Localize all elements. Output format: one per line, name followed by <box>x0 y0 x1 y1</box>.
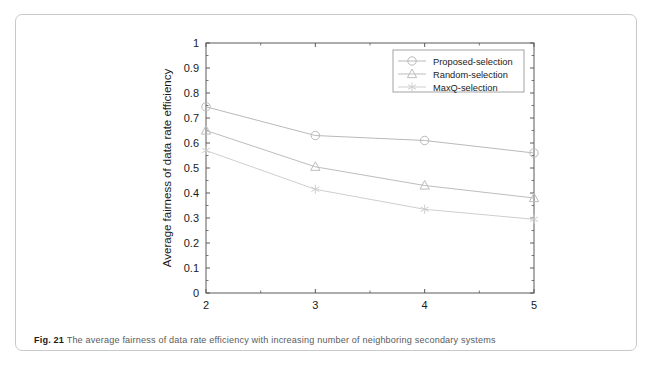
y-tick-label: 0.7 <box>184 112 199 124</box>
y-tick-label: 0.5 <box>184 162 199 174</box>
legend-label: Proposed-selection <box>433 57 513 67</box>
series-line <box>206 107 534 153</box>
x-tick-label: 5 <box>531 299 537 311</box>
y-axis-title: Average fairness of data rate efficiency <box>161 69 173 268</box>
x-tick-label: 4 <box>422 299 428 311</box>
marker-star-ray <box>421 209 425 211</box>
legend-label: MaxQ-selection <box>433 83 498 93</box>
line-chart-svg: 00.10.20.30.40.50.60.70.80.912345The num… <box>16 15 638 315</box>
x-tick-label: 2 <box>203 299 209 311</box>
x-tick-label: 3 <box>312 299 318 311</box>
marker-star-ray <box>311 189 315 191</box>
series-1 <box>202 103 538 158</box>
y-tick-label: 1 <box>193 37 199 49</box>
series-3 <box>202 146 538 224</box>
series-2 <box>201 126 538 202</box>
marker-star-ray <box>206 148 210 150</box>
series-line <box>206 131 534 199</box>
marker-star-ray <box>202 148 206 150</box>
chart-legend: Proposed-selectionRandom-selectionMaxQ-s… <box>393 50 524 93</box>
chart-plot-area: 00.10.20.30.40.50.60.70.80.912345The num… <box>16 15 638 315</box>
y-tick-label: 0.9 <box>184 62 199 74</box>
y-tick-label: 0.2 <box>184 237 199 249</box>
y-tick-label: 0 <box>193 287 199 299</box>
y-tick-label: 0.8 <box>184 87 199 99</box>
y-tick-label: 0.3 <box>184 212 199 224</box>
figure-caption: Fig. 21 The average fairness of data rat… <box>34 334 620 346</box>
legend-label: Random-selection <box>433 70 508 80</box>
y-tick-label: 0.1 <box>184 262 199 274</box>
figure-caption-text: The average fairness of data rate effici… <box>67 335 496 345</box>
marker-star-ray <box>425 207 429 209</box>
y-tick-label: 0.6 <box>184 137 199 149</box>
marker-star-ray <box>202 151 206 153</box>
marker-star-ray <box>534 219 538 221</box>
marker-star-ray <box>534 217 538 219</box>
data-point <box>202 146 210 155</box>
figure-number: Fig. 21 <box>34 335 64 345</box>
figure-card: 00.10.20.30.40.50.60.70.80.912345The num… <box>15 14 637 351</box>
marker-star-ray <box>315 187 319 189</box>
data-point <box>311 185 319 194</box>
series-line <box>206 151 534 220</box>
y-tick-label: 0.4 <box>184 187 199 199</box>
